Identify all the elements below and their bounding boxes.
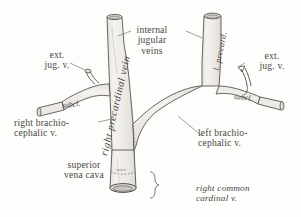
right-internal-jugular-lumen bbox=[109, 16, 120, 19]
figure-canvas: internal jugular veins ext. jug. v. ext.… bbox=[0, 0, 301, 217]
right-common-cardinal-brace bbox=[150, 172, 159, 198]
vessel-bodies bbox=[37, 13, 284, 192]
right-subclavian-vein-stub bbox=[38, 102, 64, 116]
leader-ext-jug-left bbox=[70, 63, 85, 70]
leader-internal-jugular-right bbox=[186, 31, 202, 38]
vessel-illustration bbox=[0, 0, 301, 217]
left-subclavian-vein-body bbox=[216, 86, 260, 104]
left-subclavian-cut-end bbox=[280, 102, 284, 110]
right-subclavian-cut-end bbox=[37, 108, 41, 116]
left-external-jugular-vein-b bbox=[245, 68, 251, 86]
left-subclavian-vein-stub bbox=[258, 97, 283, 110]
leader-right-brachiocephalic bbox=[98, 119, 112, 122]
left-internal-jugular-vein-body bbox=[202, 16, 221, 86]
left-internal-jugular-lumen bbox=[207, 15, 219, 18]
superior-vena-cava-lumen bbox=[113, 186, 133, 191]
left-brachiocephalic-vein-body bbox=[133, 86, 202, 150]
leader-left-brachiocephalic bbox=[178, 116, 202, 136]
superior-vena-cava-body bbox=[110, 150, 136, 188]
right-brachiocephalic-vein-body bbox=[62, 84, 110, 110]
right-external-jugular-cut-end bbox=[85, 69, 91, 73]
